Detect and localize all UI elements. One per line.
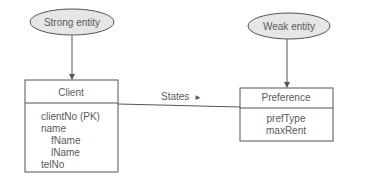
strong-entity-annotation: Strong entity <box>30 9 114 79</box>
direction-arrow-icon: ► <box>194 93 202 102</box>
entity-preference[interactable]: Preference prefType maxRent <box>240 88 333 141</box>
relationship-line <box>118 104 240 107</box>
relationship-states: States ► <box>118 91 240 107</box>
preference-title: Preference <box>262 92 311 103</box>
preference-attr: maxRent <box>266 125 306 136</box>
client-attr: lName <box>51 147 80 158</box>
er-diagram: Strong entity Weak entity Client clientN… <box>0 0 386 180</box>
entity-client[interactable]: Client clientNo (PK) name fName lName te… <box>25 80 118 172</box>
client-attr: fName <box>51 135 81 146</box>
client-title: Client <box>58 87 84 98</box>
strong-entity-label: Strong entity <box>44 17 100 28</box>
weak-entity-annotation: Weak entity <box>248 13 330 87</box>
relationship-label: States <box>161 91 189 102</box>
client-attr: clientNo (PK) <box>41 111 100 122</box>
weak-entity-label: Weak entity <box>263 21 315 32</box>
client-attr: name <box>41 123 66 134</box>
preference-attr: prefType <box>267 113 306 124</box>
client-attr: telNo <box>41 159 65 170</box>
